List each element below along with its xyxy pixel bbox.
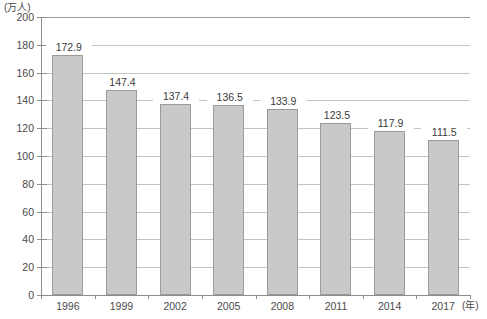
x-tick-mark — [256, 295, 257, 299]
y-tick-mark — [41, 184, 47, 185]
x-axis-tick-label: 1996 — [43, 300, 93, 312]
y-axis-tick-label: 160 — [0, 68, 34, 79]
bar — [428, 140, 459, 295]
y-tick-mark-outer — [37, 212, 41, 213]
x-axis-unit-label: (年) — [462, 300, 479, 312]
y-tick-mark-outer — [37, 128, 41, 129]
y-axis-tick-label: 20 — [0, 262, 34, 273]
y-tick-mark-outer — [37, 156, 41, 157]
x-axis-tick-label: 2002 — [150, 300, 200, 312]
bar — [106, 90, 137, 295]
bar — [160, 104, 191, 295]
bar-value-label: 133.9 — [260, 96, 306, 107]
y-tick-mark-outer — [37, 239, 41, 240]
bar — [52, 55, 83, 295]
x-tick-mark — [148, 295, 149, 299]
x-axis-tick-label: 2014 — [365, 300, 415, 312]
x-tick-mark — [202, 295, 203, 299]
bar-value-label: 172.9 — [46, 42, 92, 53]
y-axis-tick-label: 180 — [0, 40, 34, 51]
bar-value-label: 123.5 — [314, 110, 360, 121]
y-tick-mark — [41, 128, 47, 129]
gridline — [41, 45, 470, 46]
y-tick-mark-outer — [37, 17, 41, 18]
x-tick-mark — [309, 295, 310, 299]
y-axis-tick-label: 100 — [0, 151, 34, 162]
x-tick-mark — [41, 295, 42, 299]
y-tick-mark — [41, 17, 47, 18]
bar — [213, 105, 244, 295]
y-axis-tick-label: 60 — [0, 207, 34, 218]
y-tick-mark-outer — [37, 267, 41, 268]
x-tick-mark — [416, 295, 417, 299]
x-axis-tick-label: 2011 — [311, 300, 361, 312]
y-tick-mark — [41, 212, 47, 213]
x-tick-mark — [95, 295, 96, 299]
bar-value-label: 147.4 — [99, 77, 145, 88]
bar — [320, 123, 351, 295]
y-tick-mark-outer — [37, 184, 41, 185]
x-tick-mark — [470, 295, 471, 299]
y-axis-tick-label: 120 — [0, 123, 34, 134]
plot-area: 172.9147.4137.4136.5133.9123.5117.9111.5 — [41, 17, 470, 295]
y-axis-tick-label: 80 — [0, 179, 34, 190]
y-tick-mark — [41, 156, 47, 157]
y-tick-mark-outer — [37, 45, 41, 46]
y-tick-mark — [41, 267, 47, 268]
y-tick-mark-outer — [37, 73, 41, 74]
x-tick-mark — [363, 295, 364, 299]
x-axis-tick-label: 2005 — [204, 300, 254, 312]
bar-value-label: 111.5 — [421, 127, 467, 138]
y-axis-tick-label: 140 — [0, 95, 34, 106]
chart-screenshot: (万人) 172.9147.4137.4136.5133.9123.5117.9… — [0, 0, 487, 319]
x-axis-tick-label: 2008 — [257, 300, 307, 312]
bar — [374, 131, 405, 295]
bar-value-label: 136.5 — [207, 92, 253, 103]
bar-value-label: 137.4 — [153, 91, 199, 102]
y-tick-mark-outer — [37, 100, 41, 101]
y-axis-tick-label: 200 — [0, 12, 34, 23]
gridline — [41, 17, 470, 18]
y-axis-tick-label: 40 — [0, 234, 34, 245]
y-tick-mark — [41, 73, 47, 74]
x-axis-tick-label: 2017 — [418, 300, 468, 312]
bar — [267, 109, 298, 295]
y-tick-mark — [41, 239, 47, 240]
gridline — [41, 73, 470, 74]
x-axis-tick-label: 1999 — [96, 300, 146, 312]
y-tick-mark — [41, 100, 47, 101]
y-axis-tick-label: 0 — [0, 290, 34, 301]
bar-value-label: 117.9 — [368, 118, 414, 129]
